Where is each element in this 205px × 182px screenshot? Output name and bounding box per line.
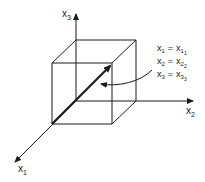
cube-edge: [112, 40, 136, 63]
annotation-equations: x1=x11 x2=x22 x3=x33: [157, 43, 187, 82]
equation-line-1: x1=x11: [157, 43, 187, 56]
x3-axis-label: x3: [62, 8, 71, 21]
cube-edge: [52, 40, 76, 63]
equation-line-3: x3=x33: [157, 69, 187, 82]
diagonal-vector: [52, 66, 110, 124]
coordinate-diagram: x3 x2 x1 x1=x11 x2=x22 x3=x33: [0, 0, 205, 182]
x2-axis-label: x2: [186, 105, 195, 118]
cube-edge: [112, 101, 136, 124]
equation-line-2: x2=x22: [157, 56, 187, 69]
pointer-arrow: [101, 70, 152, 85]
x1-axis-label: x1: [18, 163, 27, 176]
